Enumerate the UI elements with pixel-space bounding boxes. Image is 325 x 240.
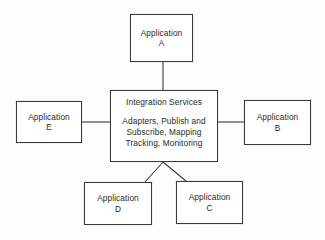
integration-services-detail-line2: Subscribe, Mapping <box>126 127 201 138</box>
node-application-c[interactable]: Application C <box>176 181 243 224</box>
node-application-b-line2: B <box>275 123 281 134</box>
diagram-canvas: Application A Application E Integration … <box>0 0 325 240</box>
node-application-d[interactable]: Application D <box>84 182 152 225</box>
node-application-d-line2: D <box>115 204 121 215</box>
connector-hub-to-app-d <box>145 162 163 182</box>
node-application-e-line2: E <box>46 122 52 133</box>
node-application-a-line1: Application <box>141 28 183 39</box>
node-application-d-line1: Application <box>97 193 139 204</box>
node-application-a[interactable]: Application A <box>130 14 193 62</box>
integration-services-detail-line1: Adapters, Publish and <box>122 116 205 127</box>
integration-services-title: Integration Services <box>126 97 202 108</box>
node-application-b-line1: Application <box>257 112 299 123</box>
connector-hub-to-app-c <box>163 162 186 181</box>
node-application-e[interactable]: Application E <box>16 101 82 143</box>
node-application-a-line2: A <box>159 38 165 49</box>
node-integration-services[interactable]: Integration Services Adapters, Publish a… <box>110 90 218 162</box>
node-application-c-line2: C <box>206 203 212 214</box>
integration-services-detail-line3: Tracking, Monitoring <box>126 138 203 149</box>
node-application-e-line1: Application <box>28 112 70 123</box>
node-application-b[interactable]: Application B <box>244 100 311 145</box>
node-application-c-line1: Application <box>189 192 231 203</box>
integration-services-detail: Adapters, Publish and Subscribe, Mapping… <box>122 116 205 149</box>
